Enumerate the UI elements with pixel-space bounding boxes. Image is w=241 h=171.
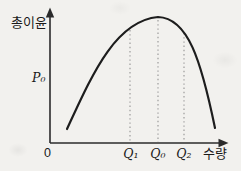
y-axis-label: 총이윤	[11, 15, 47, 30]
total-profit-curve	[67, 17, 215, 129]
q0-label: Q₀	[150, 146, 165, 161]
p0-label: P₀	[31, 70, 45, 85]
q1-label: Q₁	[123, 146, 138, 161]
q2-label: Q₂	[176, 146, 191, 161]
y-axis-arrowhead-icon	[46, 8, 54, 18]
profit-quantity-chart: 총이윤 P₀ 0 Q₁ Q₀ Q₂ 수량	[0, 0, 241, 171]
origin-label: 0	[44, 146, 51, 160]
x-axis-label: 수량	[203, 146, 227, 161]
